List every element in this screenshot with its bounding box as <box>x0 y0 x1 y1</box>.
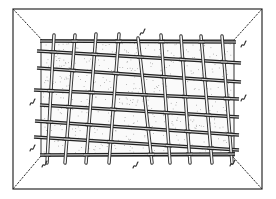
stipple-dot <box>126 98 127 99</box>
stipple-dot <box>46 45 47 46</box>
stipple-dot <box>196 126 197 127</box>
stipple-dot <box>87 75 88 76</box>
stipple-dot <box>192 145 193 146</box>
stipple-dot <box>95 97 96 98</box>
stipple-dot <box>59 66 60 67</box>
stipple-dot <box>48 66 49 67</box>
stipple-dot <box>173 62 174 63</box>
stipple-dot <box>78 116 79 117</box>
stipple-dot <box>102 134 103 135</box>
stipple-dot <box>159 55 160 56</box>
stipple-dot <box>148 45 149 46</box>
stipple-dot <box>114 145 115 146</box>
stipple-dot <box>177 118 178 119</box>
stipple-dot <box>122 67 123 68</box>
stipple-dot <box>186 50 187 51</box>
stipple-dot <box>217 111 218 112</box>
stipple-dot <box>82 112 83 113</box>
stipple-dot <box>163 135 164 136</box>
stipple-dot <box>63 44 64 45</box>
stipple-dot <box>75 131 76 132</box>
stipple-dot <box>154 91 155 92</box>
stipple-dot <box>75 63 76 64</box>
stipple-dot <box>119 98 120 99</box>
stipple-dot <box>132 148 133 149</box>
stipple-dot <box>101 144 102 145</box>
stipple-dot <box>211 94 212 95</box>
stipple-dot <box>193 45 194 46</box>
stipple-dot <box>131 60 132 61</box>
stipple-dot <box>124 121 125 122</box>
stipple-dot <box>47 80 48 81</box>
stipple-dot <box>137 102 138 103</box>
stipple-dot <box>61 108 62 109</box>
stipple-dot <box>145 48 146 49</box>
stipple-dot <box>221 151 222 152</box>
stipple-dot <box>223 140 224 141</box>
stipple-dot <box>129 104 130 105</box>
stipple-dot <box>153 114 154 115</box>
stipple-dot <box>137 121 138 122</box>
stipple-dot <box>211 47 212 48</box>
stipple-dot <box>132 102 133 103</box>
stipple-dot <box>119 99 120 100</box>
stipple-dot <box>210 89 211 90</box>
stipple-dot <box>223 127 224 128</box>
stipple-dot <box>58 110 59 111</box>
squiggle-mark <box>30 99 35 105</box>
stipple-dot <box>199 89 200 90</box>
stipple-dot <box>128 139 129 140</box>
stipple-dot <box>214 118 215 119</box>
stipple-dot <box>166 86 167 87</box>
stipple-dot <box>64 79 65 80</box>
stipple-dot <box>229 95 230 96</box>
stipple-dot <box>219 68 220 69</box>
stipple-dot <box>62 145 63 146</box>
stipple-dot <box>191 71 192 72</box>
stipple-dot <box>196 125 197 126</box>
squiggle-mark <box>133 162 138 168</box>
corner-line <box>13 156 41 189</box>
stipple-dot <box>86 90 87 91</box>
stipple-dot <box>98 60 99 61</box>
stipple-dot <box>134 123 135 124</box>
woven-rod-grid-illustration <box>0 0 276 199</box>
stipple-dot <box>176 44 177 45</box>
stipple-dot <box>81 101 82 102</box>
stipple-dot <box>103 44 104 45</box>
stipple-dot <box>196 128 197 129</box>
stipple-dot <box>133 99 134 100</box>
stipple-dot <box>173 125 174 126</box>
stipple-dot <box>215 64 216 65</box>
stipple-dot <box>156 121 157 122</box>
stipple-dot <box>189 116 190 117</box>
illustration-canvas <box>0 0 276 199</box>
stipple-dot <box>128 91 129 92</box>
stipple-dot <box>55 82 56 83</box>
stipple-dot <box>48 81 49 82</box>
stipple-dot <box>80 130 81 131</box>
stipple-dot <box>67 44 68 45</box>
stipple-dot <box>72 99 73 100</box>
stipple-dot <box>139 88 140 89</box>
stipple-dot <box>60 125 61 126</box>
stipple-dot <box>97 130 98 131</box>
stipple-dot <box>110 116 111 117</box>
stipple-dot <box>78 127 79 128</box>
stipple-dot <box>196 105 197 106</box>
stipple-dot <box>146 79 147 80</box>
stipple-dot <box>113 71 114 72</box>
stipple-dot <box>84 58 85 59</box>
stipple-dot <box>81 147 82 148</box>
stipple-dot <box>126 84 127 85</box>
stipple-dot <box>226 132 227 133</box>
stipple-dot <box>55 125 56 126</box>
stipple-dot <box>130 146 131 147</box>
stipple-dot <box>126 52 127 53</box>
stipple-dot <box>66 77 67 78</box>
stipple-dot <box>105 99 106 100</box>
stipple-dot <box>135 70 136 71</box>
stipple-dot <box>76 48 77 49</box>
stipple-dot <box>95 132 96 133</box>
stipple-dot <box>133 123 134 124</box>
